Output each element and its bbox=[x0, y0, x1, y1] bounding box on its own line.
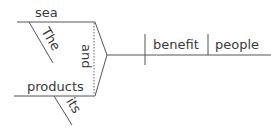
sentence-diagram: sea The products its and benefit people bbox=[0, 0, 271, 129]
subject-2-modifier-word: its bbox=[63, 95, 84, 116]
subject-1-word: sea bbox=[35, 5, 58, 20]
subject-2-word: products bbox=[27, 79, 84, 94]
verb-word: benefit bbox=[153, 37, 199, 52]
upper-fork-line bbox=[95, 22, 107, 55]
conjunction-word: and bbox=[79, 44, 94, 68]
subject-1-modifier-word: The bbox=[38, 24, 64, 53]
lower-fork-line bbox=[95, 55, 107, 96]
direct-object-word: people bbox=[215, 37, 259, 52]
